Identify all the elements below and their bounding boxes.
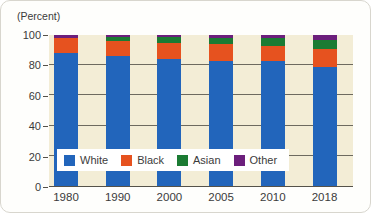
- chart-card: (Percent) WhiteBlackAsianOther 020406080…: [0, 0, 371, 213]
- legend-item-white: White: [64, 154, 108, 166]
- bar-2010-segment-black: [261, 46, 285, 61]
- bar-1990-segment-black: [106, 41, 130, 56]
- x-tick-label-2010: 2010: [251, 191, 295, 203]
- x-tick-label-1980: 1980: [44, 191, 88, 203]
- y-tick-mark-60: [43, 96, 48, 97]
- y-axis-unit-label: (Percent): [17, 10, 60, 22]
- legend-label-other: Other: [250, 154, 278, 166]
- y-tick-mark-100: [43, 35, 48, 36]
- x-tick-label-2018: 2018: [303, 191, 347, 203]
- y-tick-mark-0: [43, 187, 48, 188]
- bar-2005-segment-black: [209, 44, 233, 61]
- legend-item-other: Other: [234, 154, 278, 166]
- bar-2000-segment-black: [157, 43, 181, 60]
- legend-swatch-black-icon: [121, 155, 132, 166]
- y-tick-mark-20: [43, 157, 48, 158]
- y-tick-label-20: 20: [1, 150, 41, 164]
- bar-2010-segment-asian: [261, 38, 285, 46]
- legend-label-black: Black: [137, 154, 164, 166]
- legend-label-asian: Asian: [193, 154, 221, 166]
- gridline-80: [49, 64, 353, 65]
- x-tick-label-2005: 2005: [199, 191, 243, 203]
- bar-2018-segment-asian: [313, 40, 337, 49]
- bar-1980-segment-black: [54, 38, 78, 53]
- x-tick-label-1990: 1990: [96, 191, 140, 203]
- bar-2018: [313, 35, 337, 186]
- bar-2018-segment-white: [313, 67, 337, 186]
- y-tick-mark-40: [43, 126, 48, 127]
- legend-swatch-other-icon: [234, 155, 245, 166]
- plot-area: WhiteBlackAsianOther: [49, 35, 353, 187]
- y-tick-label-40: 40: [1, 119, 41, 133]
- legend-label-white: White: [80, 154, 108, 166]
- gridline-60: [49, 94, 353, 95]
- legend-item-black: Black: [121, 154, 164, 166]
- y-tick-label-60: 60: [1, 89, 41, 103]
- y-tick-label-100: 100: [1, 28, 41, 42]
- legend-item-asian: Asian: [177, 154, 221, 166]
- x-tick-label-2000: 2000: [147, 191, 191, 203]
- y-tick-label-0: 0: [1, 180, 41, 194]
- legend-swatch-white-icon: [64, 155, 75, 166]
- bar-2018-segment-black: [313, 49, 337, 67]
- legend-swatch-asian-icon: [177, 155, 188, 166]
- y-tick-mark-80: [43, 65, 48, 66]
- y-tick-label-80: 80: [1, 58, 41, 72]
- gridline-40: [49, 125, 353, 126]
- legend: WhiteBlackAsianOther: [57, 149, 289, 171]
